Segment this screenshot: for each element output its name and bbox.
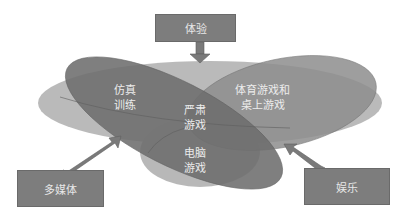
arrow-up-right: [63, 136, 121, 174]
label-line: 训练: [114, 98, 136, 113]
multimedia-box: 多媒体: [17, 170, 104, 207]
entertainment-box: 娱乐: [304, 168, 390, 205]
region-label-simulation-training: 仿真 训练: [114, 83, 136, 113]
experience-box: 体验: [155, 14, 236, 42]
label-line: 严肃: [184, 103, 206, 118]
serious-games-venn-diagram: 仿真 训练 严肃 游戏 体育游戏和 桌上游戏 电脑 游戏 体验 多媒体 娱乐: [0, 0, 404, 218]
entertainment-label: 娱乐: [336, 179, 358, 195]
multimedia-label: 多媒体: [44, 181, 77, 197]
arrow-down: [190, 42, 210, 63]
region-label-computer-games: 电脑 游戏: [184, 146, 206, 176]
region-label-sports-board-games: 体育游戏和 桌上游戏: [235, 83, 290, 113]
label-line: 仿真: [114, 83, 136, 98]
label-line: 桌上游戏: [235, 98, 290, 113]
region-label-serious-games: 严肃 游戏: [184, 103, 206, 133]
experience-label: 体验: [185, 20, 207, 36]
label-line: 游戏: [184, 161, 206, 176]
arrow-up-left: [284, 144, 325, 171]
label-line: 体育游戏和: [235, 83, 290, 98]
label-line: 游戏: [184, 118, 206, 133]
label-line: 电脑: [184, 146, 206, 161]
